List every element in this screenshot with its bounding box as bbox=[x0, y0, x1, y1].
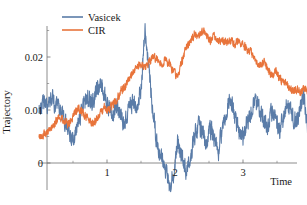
y-tick-label: 0.02 bbox=[25, 52, 43, 63]
y-axis-tick-labels: 00.010.02 bbox=[25, 52, 43, 169]
trajectory-line-chart: 123 00.010.02 Time Trajectory Vasicek CI… bbox=[0, 0, 307, 205]
x-axis-title: Time bbox=[270, 176, 292, 187]
x-tick-label: 1 bbox=[104, 167, 109, 178]
y-tick-label: 0 bbox=[38, 158, 43, 169]
x-tick-label: 2 bbox=[172, 167, 177, 178]
legend-label-vasicek: Vasicek bbox=[88, 12, 121, 23]
x-axis-tick-labels: 123 bbox=[104, 167, 245, 178]
legend-label-cir: CIR bbox=[88, 25, 106, 36]
y-axis-title: Trajectory bbox=[1, 90, 12, 134]
x-tick-label: 3 bbox=[240, 167, 245, 178]
chart-legend: Vasicek CIR bbox=[62, 12, 121, 36]
y-tick-label: 0.01 bbox=[25, 105, 43, 116]
chart-container: 123 00.010.02 Time Trajectory Vasicek CI… bbox=[0, 0, 307, 205]
